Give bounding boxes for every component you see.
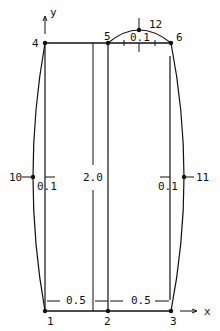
node-4 xyxy=(43,41,47,45)
node-12-label: 12 xyxy=(149,18,162,31)
node-6 xyxy=(169,41,173,45)
node-1 xyxy=(43,309,47,313)
right-bulge-label: 0.1 xyxy=(158,180,178,193)
node-5-label: 5 xyxy=(104,30,111,43)
node-1-label: 1 xyxy=(47,315,54,328)
node-4-label: 4 xyxy=(32,37,39,50)
node-3-label: 3 xyxy=(170,315,177,328)
y-axis-label: y xyxy=(50,6,57,19)
diagram-canvas: y x 2.0 0.1 0.1 0.1 0.5 0.5 1 2 3 4 xyxy=(0,0,220,331)
node-10-label: 10 xyxy=(9,171,22,184)
left-bulge-label: 0.1 xyxy=(37,180,57,193)
node-2-label: 2 xyxy=(104,315,111,328)
node-3 xyxy=(169,309,173,313)
node-12 xyxy=(137,28,141,32)
right-width-label: 0.5 xyxy=(131,294,151,307)
node-2 xyxy=(106,309,110,313)
node-11-label: 11 xyxy=(196,171,209,184)
left-width-label: 0.5 xyxy=(66,294,86,307)
height-dimension-label: 2.0 xyxy=(83,171,103,184)
top-bulge-label: 0.1 xyxy=(130,31,150,44)
node-6-label: 6 xyxy=(176,31,183,44)
x-axis-label: x xyxy=(204,305,211,318)
